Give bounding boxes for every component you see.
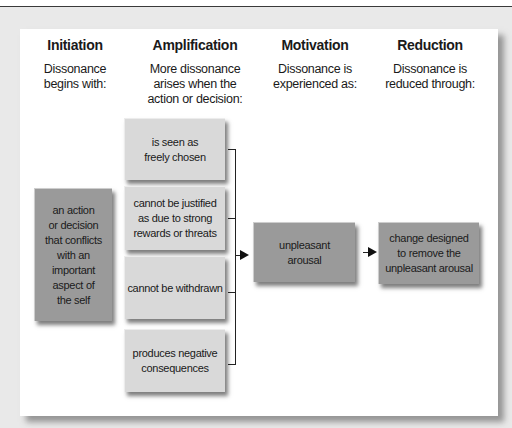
box-line: an action <box>53 203 95 218</box>
amplification-box-cannot-be-withdrawn: cannot be withdrawn <box>124 256 225 319</box>
subtitle-line: experienced as: <box>260 77 370 92</box>
box-line: unpleasant arousal <box>385 261 473 276</box>
bracket-vertical <box>235 149 236 365</box>
initiation-box: an action or decision that conflicts wit… <box>34 188 112 321</box>
column-title-amplification: Amplification <box>130 37 260 53</box>
box-line: change designed <box>389 231 468 246</box>
box-line: unpleasant <box>279 238 330 253</box>
column-subtitle-motivation: Dissonance is experienced as: <box>260 62 370 92</box>
box-line: consequences <box>141 361 208 376</box>
figure-background: Initiation Amplification Motivation Redu… <box>0 7 512 428</box>
column-subtitle-amplification: More dissonance arises when the action o… <box>130 62 260 107</box>
box-line: freely chosen <box>144 150 206 165</box>
box-line: produces negative <box>133 346 218 361</box>
bracket-tick-4 <box>228 364 236 365</box>
column-title-initiation: Initiation <box>20 37 130 53</box>
box-line: aspect of <box>53 278 95 293</box>
box-line: to remove the <box>397 246 460 261</box>
column-title-reduction: Reduction <box>370 37 490 53</box>
column-title-motivation: Motivation <box>260 37 370 53</box>
box-line: as due to strong <box>138 211 212 226</box>
box-line: rewards or threats <box>133 226 216 241</box>
reduction-box: change designed to remove the unpleasant… <box>378 222 479 284</box>
subtitle-line: Dissonance is <box>260 62 370 77</box>
diagram-panel: Initiation Amplification Motivation Redu… <box>20 29 498 416</box>
amplification-box-freely-chosen: is seen as freely chosen <box>124 118 225 180</box>
bracket-tick-1 <box>228 149 236 150</box>
box-line: cannot be withdrawn <box>127 281 222 296</box>
bracket-tick-3 <box>228 292 236 293</box>
box-line: cannot be justified <box>134 196 217 211</box>
box-line: arousal <box>288 253 322 268</box>
amplification-box-cannot-be-justified: cannot be justified as due to strong rew… <box>124 186 225 250</box>
box-line: or decision <box>49 218 99 233</box>
column-subtitle-reduction: Dissonance is reduced through: <box>370 62 490 92</box>
column-subtitle-initiation: Dissonance begins with: <box>20 62 130 92</box>
box-line: important <box>52 263 95 278</box>
subtitle-line: begins with: <box>20 77 130 92</box>
subtitle-line: More dissonance <box>130 62 260 77</box>
amplification-box-negative-consequences: produces negative consequences <box>124 329 225 392</box>
subtitle-line: Dissonance <box>20 62 130 77</box>
motivation-box: unpleasant arousal <box>253 222 355 282</box>
box-line: that conflicts <box>45 233 102 248</box>
arrow-right-icon <box>368 247 377 257</box>
subtitle-line: arises when the <box>130 77 260 92</box>
subtitle-line: Dissonance is <box>370 62 490 77</box>
box-line: is seen as <box>152 135 199 150</box>
bracket-tick-2 <box>228 218 236 219</box>
box-line: the self <box>57 293 90 308</box>
subtitle-line: action or decision: <box>130 92 260 107</box>
subtitle-line: reduced through: <box>370 77 490 92</box>
arrow-right-icon <box>240 250 249 260</box>
box-line: with an <box>57 248 90 263</box>
